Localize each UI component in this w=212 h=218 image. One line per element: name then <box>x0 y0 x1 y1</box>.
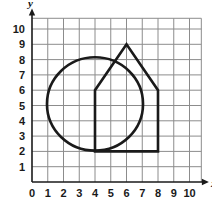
x-tick-label-8: 8 <box>155 187 161 199</box>
x-tick-label-4: 4 <box>92 187 99 199</box>
y-tick-label-4: 4 <box>19 115 26 127</box>
y-tick-label-1: 1 <box>19 161 25 173</box>
y-axis-arrow <box>29 8 35 15</box>
y-tick-label-10: 10 <box>13 23 25 35</box>
y-tick-label-9: 9 <box>19 38 25 50</box>
y-tick-label-2: 2 <box>19 145 25 157</box>
coordinate-plot: xy01234567891012345678910 <box>0 0 212 218</box>
y-tick-label-5: 5 <box>19 100 25 112</box>
y-tick-label-7: 7 <box>19 69 25 81</box>
x-tick-label-5: 5 <box>108 187 114 199</box>
y-tick-label-8: 8 <box>19 54 25 66</box>
x-axis-arrow <box>202 179 209 185</box>
x-tick-label-10: 10 <box>183 187 195 199</box>
x-tick-label-1: 1 <box>45 187 51 199</box>
x-tick-label-7: 7 <box>139 187 145 199</box>
x-tick-label-6: 6 <box>123 187 129 199</box>
x-tick-label-9: 9 <box>171 187 177 199</box>
x-tick-label-0: 0 <box>29 187 35 199</box>
x-tick-label-2: 2 <box>60 187 66 199</box>
y-tick-label-3: 3 <box>19 130 25 142</box>
coordinate-plane-figure: xy01234567891012345678910 <box>0 0 212 218</box>
y-tick-label-6: 6 <box>19 84 25 96</box>
x-axis-label: x <box>210 177 212 189</box>
x-tick-label-3: 3 <box>76 187 82 199</box>
y-axis-label: y <box>26 0 33 9</box>
